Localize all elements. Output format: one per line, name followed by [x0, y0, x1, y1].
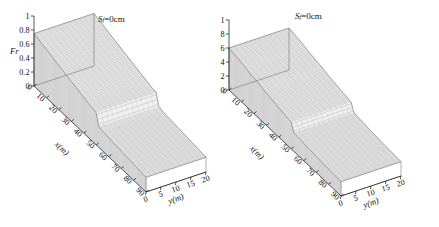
annotation-value-left: =0cm	[104, 14, 125, 24]
annotation-layer-right: Sf=0cm	[220, 0, 439, 227]
annotation-value-right: =0cm	[301, 11, 322, 21]
annotation-layer-left: Sf=0cm	[0, 0, 219, 227]
panel-left: 00.20.40.60.81Fr0102030405060708090x(m)0…	[0, 0, 219, 227]
annotation-sf-left: Sf=0cm	[98, 14, 125, 24]
figure-3d-froude-surfaces: 00.20.40.60.81Fr0102030405060708090x(m)0…	[0, 0, 439, 227]
annotation-sf-right: Sf=0cm	[295, 11, 322, 21]
panel-right: 00.20.40.60.81Fr0102030405060708090x(m)0…	[220, 0, 439, 227]
